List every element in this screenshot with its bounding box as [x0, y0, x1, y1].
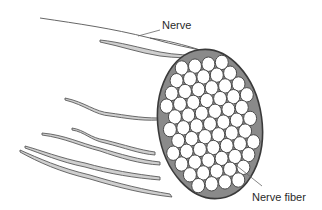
- fiber-strand: [20, 150, 172, 197]
- fiber-strand: [72, 128, 155, 155]
- fiber-strand: [65, 98, 158, 120]
- nerve-fiber-label: Nerve fiber: [252, 191, 306, 203]
- nerve-label: Nerve: [162, 19, 191, 31]
- nerve-diagram: Nerve Nerve fiber: [0, 0, 322, 210]
- nerve-fiber: [192, 178, 205, 192]
- nerve-fiber: [219, 175, 232, 189]
- nerve-fiber: [205, 177, 218, 191]
- nerve-fiber: [232, 173, 245, 187]
- nerve-leader-line: [138, 30, 160, 36]
